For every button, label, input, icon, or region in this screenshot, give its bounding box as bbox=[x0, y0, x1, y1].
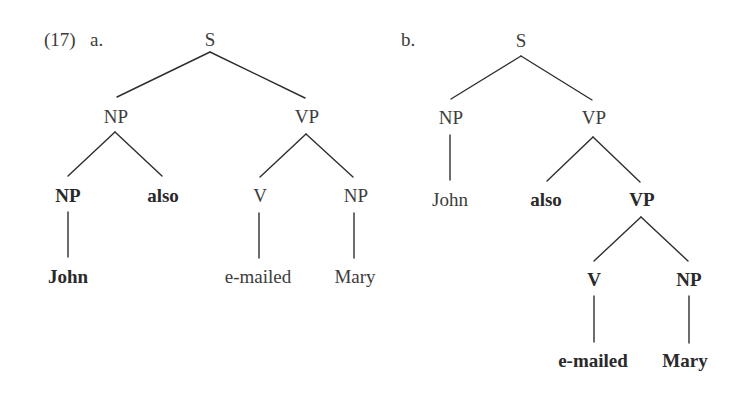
tree-b-marker: b. bbox=[401, 30, 415, 50]
tree-b-node-VP: VP bbox=[582, 108, 606, 128]
edge-b-S-NP bbox=[451, 56, 521, 99]
example-number: (17) bbox=[44, 30, 76, 50]
edge-a-NP-also bbox=[115, 132, 162, 176]
tree-a-node-NP-inner: NP bbox=[55, 186, 80, 206]
syntax-tree-figure: (17) a. S NP VP NP also V NP John e-mail… bbox=[0, 0, 742, 393]
tree-b-leaf-John: John bbox=[432, 190, 468, 210]
tree-a-node-S: S bbox=[205, 30, 216, 50]
tree-b-node-NP: NP bbox=[439, 108, 463, 128]
tree-b-node-V: V bbox=[587, 270, 601, 290]
tree-b-node-also: also bbox=[530, 190, 562, 210]
edge-a-NP-NPinner bbox=[68, 132, 115, 176]
edge-a-S-VP bbox=[210, 52, 305, 98]
tree-b-leaf-emailed: e-mailed bbox=[558, 351, 628, 371]
edge-b-VP-also bbox=[547, 137, 593, 181]
edge-a-S-NP bbox=[117, 52, 210, 97]
tree-b-leaf-Mary: Mary bbox=[662, 351, 707, 371]
edge-a-VP-V bbox=[260, 134, 306, 177]
tree-a-marker: a. bbox=[90, 30, 103, 50]
tree-a-node-VP: VP bbox=[295, 107, 319, 127]
tree-a-leaf-emailed: e-mailed bbox=[225, 267, 291, 287]
edge-b-S-VP bbox=[521, 56, 592, 100]
tree-b-node-NP-object: NP bbox=[676, 270, 701, 290]
tree-a-node-also: also bbox=[147, 186, 179, 206]
tree-a-node-NP-object: NP bbox=[344, 186, 368, 206]
edge-a-VP-NP bbox=[306, 134, 353, 177]
edge-b-VPinner-V bbox=[594, 217, 641, 261]
tree-b-node-S: S bbox=[516, 31, 527, 51]
tree-b-node-VP-inner: VP bbox=[629, 190, 654, 210]
tree-a-edges bbox=[68, 52, 354, 258]
tree-a-leaf-John: John bbox=[48, 267, 88, 287]
edge-b-VP-VPinner bbox=[593, 137, 640, 182]
edge-b-VPinner-NP bbox=[641, 217, 688, 261]
tree-a-leaf-Mary: Mary bbox=[334, 267, 375, 287]
tree-a-node-NP: NP bbox=[104, 107, 128, 127]
tree-a-node-V: V bbox=[253, 186, 267, 206]
